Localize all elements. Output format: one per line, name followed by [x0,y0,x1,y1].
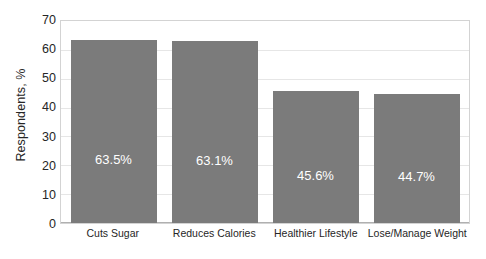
bar-data-label: 63.5% [71,153,157,166]
bar-slot: 63.1% [164,21,265,223]
x-tick-label: Cuts Sugar [62,228,164,252]
y-tick-label: 0 [24,218,56,231]
bar-slot: 63.5% [63,21,164,223]
y-tick-label: 60 [24,43,56,56]
bar[interactable]: 44.7% [374,94,460,223]
bar-data-label: 63.1% [172,154,258,167]
x-axis-category-labels: Cuts Sugar Reduces Calories Healthier Li… [60,228,470,252]
bar[interactable]: 63.1% [172,41,258,223]
bar-data-label: 45.6% [273,169,359,182]
bar-data-label: 44.7% [374,170,460,183]
bar-slot: 45.6% [265,21,366,223]
y-tick-label: 70 [24,14,56,27]
bar[interactable]: 45.6% [273,91,359,223]
y-tick-label: 30 [24,130,56,143]
bar[interactable]: 63.5% [71,40,157,223]
y-axis-tick-labels: 70 60 50 40 30 20 10 0 [24,20,56,224]
y-tick-label: 50 [24,72,56,85]
bar-chart: Respondents, % 70 60 50 40 30 20 10 0 63… [0,0,486,259]
x-tick-label: Healthier Lifestyle [265,228,367,252]
x-tick-label: Lose/Manage Weight [367,228,469,252]
y-tick-label: 40 [24,101,56,114]
bar-slot: 44.7% [366,21,467,223]
y-tick-label: 10 [24,189,56,202]
y-tick-label: 20 [24,159,56,172]
bar-series: 63.5% 63.1% 45.6% 44.7% [61,21,469,223]
x-tick-label: Reduces Calories [164,228,266,252]
plot-area: 63.5% 63.1% 45.6% 44.7% [60,20,470,224]
